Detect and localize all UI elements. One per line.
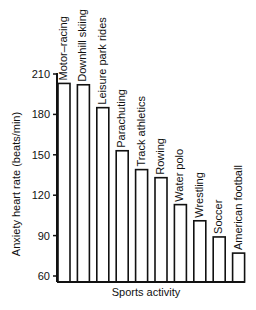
bar	[194, 221, 206, 282]
bar	[233, 253, 245, 282]
y-tick-label: 60	[38, 270, 50, 282]
x-axis-title: Sports activity	[112, 286, 181, 298]
bar-category-label: Wrestling	[193, 172, 205, 218]
y-tick-label: 120	[32, 189, 50, 201]
y-axis: 6090120150180210	[32, 68, 57, 282]
bar-category-label: Track athletics	[135, 96, 147, 167]
bar	[116, 151, 128, 282]
bar	[213, 237, 225, 282]
y-tick-label: 90	[38, 230, 50, 242]
y-tick-label: 150	[32, 149, 50, 161]
bar-category-label: Soccer	[212, 199, 224, 234]
bar-category-label: Water polo	[173, 149, 185, 202]
bar	[136, 170, 148, 282]
bar	[97, 108, 109, 282]
bar-category-label: Downhill skiing	[76, 9, 88, 82]
bar-category-label: Leisure park rides	[96, 17, 108, 105]
bar	[155, 178, 167, 282]
y-tick-label: 210	[32, 68, 50, 80]
bar	[77, 85, 89, 282]
bars	[58, 83, 245, 282]
bar-category-label: Rowing	[154, 138, 166, 175]
y-axis-title: Anxiety heart rate (beats/min)	[10, 112, 22, 256]
bar-category-label: Motor–racing	[57, 16, 69, 80]
bar	[58, 83, 70, 282]
bar-chart: 6090120150180210 Motor–racingDownhill sk…	[0, 0, 256, 310]
bar-category-label: Parachuting	[115, 89, 127, 148]
y-tick-label: 180	[32, 108, 50, 120]
bar	[174, 205, 186, 282]
bar-category-label: American football	[232, 165, 244, 250]
